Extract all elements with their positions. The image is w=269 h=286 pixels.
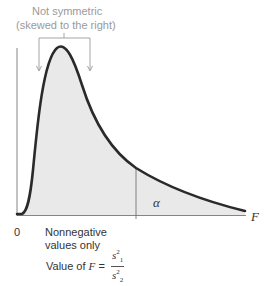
nonnegative-line1: Nonnegative <box>45 226 107 239</box>
f-formula: Value of F = s21 s22 <box>46 247 124 286</box>
skew-annotation-line1: Not symmetric <box>32 5 102 18</box>
shaded-area <box>17 47 245 215</box>
skew-annotation-line2: (skewed to the right) <box>16 19 116 32</box>
x-axis-label-F: F <box>251 210 259 223</box>
variance-ratio: s21 s22 <box>111 247 124 286</box>
zero-tick-label: 0 <box>14 226 20 239</box>
